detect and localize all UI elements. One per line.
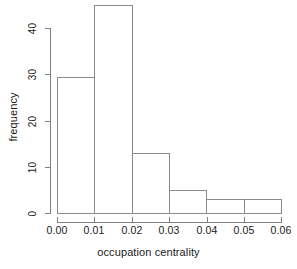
y-axis-tick-label: 30 <box>27 63 38 85</box>
y-axis-tick-label: 40 <box>27 17 38 39</box>
y-axis-spine <box>50 28 51 214</box>
y-axis-tick-label: 20 <box>27 110 38 132</box>
y-axis-tick-label: 10 <box>27 156 38 178</box>
y-axis-tick-label: 0 <box>27 202 38 224</box>
histogram-bar <box>94 5 132 214</box>
histogram-bar <box>206 199 244 214</box>
histogram-figure: 0 10 20 30 40 0.00 0.01 0.02 0.03 0.04 0… <box>0 0 297 269</box>
histogram-bar <box>57 77 95 214</box>
histogram-bar <box>132 153 170 214</box>
x-axis-tick <box>169 217 170 222</box>
y-axis-tick-label-wrap: 10 <box>21 160 43 174</box>
y-axis-tick-label-wrap: 40 <box>21 21 43 35</box>
y-axis-tick-label-wrap: 30 <box>21 67 43 81</box>
x-axis-tick-label: 0.06 <box>258 224 297 236</box>
y-axis-tick <box>45 213 50 214</box>
y-axis-tick <box>45 74 50 75</box>
x-axis-tick <box>244 217 245 222</box>
y-axis-title: frequency <box>7 72 19 162</box>
y-axis-tick-label-wrap: 20 <box>21 114 43 128</box>
x-axis-tick <box>94 217 95 222</box>
x-axis-tick <box>132 217 133 222</box>
y-axis-tick <box>45 28 50 29</box>
histogram-bar <box>169 190 207 214</box>
x-axis-tick <box>57 217 58 222</box>
x-axis-tick <box>207 217 208 222</box>
y-axis-tick <box>45 167 50 168</box>
x-axis-tick <box>281 217 282 222</box>
x-axis-spine <box>57 222 282 223</box>
y-axis-tick <box>45 121 50 122</box>
histogram-bar <box>244 199 282 214</box>
plot-area: 0 10 20 30 40 0.00 0.01 0.02 0.03 0.04 0… <box>0 0 297 269</box>
x-axis-title: occupation centrality <box>0 246 297 258</box>
y-axis-tick-label-wrap: 0 <box>21 206 43 220</box>
